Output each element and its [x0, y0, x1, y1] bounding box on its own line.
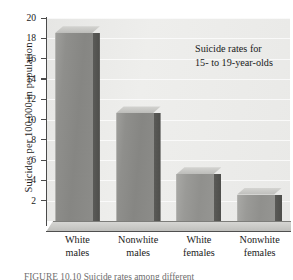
- y-axis-tick-label: 12: [14, 94, 36, 104]
- y-axis-tick-label: 6: [14, 155, 36, 165]
- y-axis-tick: [41, 58, 46, 59]
- y-axis-tick: [41, 99, 46, 100]
- figure-caption: FIGURE 10.10 Suicide rates among differe…: [24, 272, 286, 280]
- x-axis-line: [46, 231, 291, 232]
- y-axis-tick-label: 20: [14, 13, 36, 23]
- y-axis-line: [46, 17, 47, 226]
- bar-side-face: [274, 195, 282, 221]
- y-axis-tick: [41, 180, 46, 181]
- y-axis-tick: [41, 200, 46, 201]
- x-axis-label-line: females: [220, 247, 293, 260]
- y-axis-tick-label: 14: [14, 74, 36, 84]
- y-axis-tick-label: 10: [14, 115, 36, 125]
- bar-front-face: [116, 113, 154, 221]
- floor-back-edge: [53, 221, 291, 222]
- bar-side-face: [153, 113, 161, 221]
- plot-area: Suicide rates for 15- to 19-year-olds: [47, 18, 290, 221]
- gridline: [47, 18, 290, 19]
- bar-front-face: [176, 174, 214, 221]
- chart-title-line-2: 15- to 19-year-olds: [195, 56, 293, 70]
- y-axis-tick: [41, 119, 46, 120]
- chart-title: Suicide rates for 15- to 19-year-olds: [195, 42, 293, 69]
- bar-front-face: [55, 33, 93, 221]
- bar-side-face: [92, 33, 100, 221]
- bar-front-face: [237, 195, 275, 221]
- bar: [176, 174, 213, 221]
- chart-title-line-1: Suicide rates for: [195, 42, 293, 56]
- y-axis-tick: [41, 18, 46, 19]
- bar-side-face: [213, 174, 221, 221]
- x-axis-floor: [46, 221, 291, 232]
- figure-bar-chart: Suicides per 100,000 in population Suici…: [0, 0, 293, 280]
- y-axis-tick-label: 4: [14, 175, 36, 185]
- bar: [237, 195, 274, 221]
- bar: [116, 113, 153, 221]
- y-axis-tick-label: 8: [14, 135, 36, 145]
- y-axis-tick: [41, 78, 46, 79]
- x-axis-label: Nonwhitefemales: [220, 234, 293, 259]
- y-axis-tick: [41, 160, 46, 161]
- bar: [55, 33, 92, 221]
- y-axis-tick: [41, 38, 46, 39]
- y-axis-tick-label: 16: [14, 54, 36, 64]
- x-axis-label-line: Nonwhite: [220, 234, 293, 247]
- y-axis-tick-label: 18: [14, 33, 36, 43]
- y-axis-tick: [41, 139, 46, 140]
- y-axis-tick-label: 2: [14, 196, 36, 206]
